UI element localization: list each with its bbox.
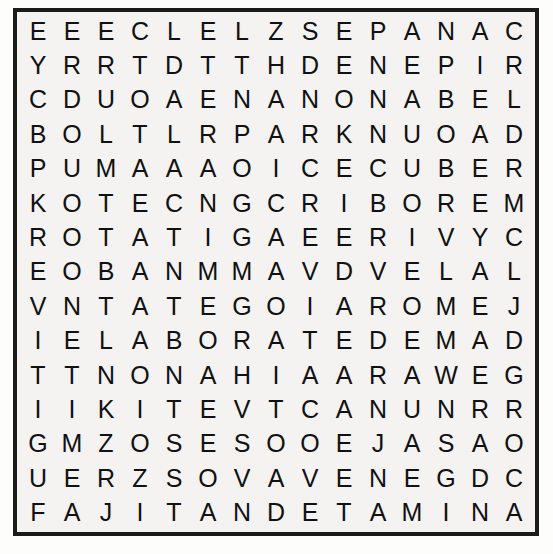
grid-cell[interactable]: R: [191, 117, 225, 151]
grid-cell[interactable]: R: [361, 220, 395, 254]
grid-cell[interactable]: L: [497, 255, 531, 289]
grid-cell[interactable]: C: [123, 14, 157, 48]
grid-cell[interactable]: V: [429, 220, 463, 254]
grid-cell[interactable]: E: [463, 186, 497, 220]
grid-cell[interactable]: A: [123, 289, 157, 323]
grid-cell[interactable]: I: [259, 358, 293, 392]
grid-cell[interactable]: O: [123, 83, 157, 117]
grid-cell[interactable]: R: [463, 392, 497, 426]
grid-cell[interactable]: V: [293, 255, 327, 289]
grid-cell[interactable]: L: [429, 255, 463, 289]
grid-cell[interactable]: D: [361, 324, 395, 358]
grid-cell[interactable]: R: [361, 358, 395, 392]
grid-cell[interactable]: A: [259, 220, 293, 254]
grid-cell[interactable]: B: [21, 117, 55, 151]
grid-cell[interactable]: N: [361, 461, 395, 495]
grid-cell[interactable]: E: [327, 152, 361, 186]
grid-cell[interactable]: E: [21, 255, 55, 289]
grid-cell[interactable]: R: [497, 48, 531, 82]
grid-cell[interactable]: M: [191, 255, 225, 289]
grid-cell[interactable]: E: [327, 461, 361, 495]
grid-cell[interactable]: Z: [123, 461, 157, 495]
grid-cell[interactable]: A: [259, 83, 293, 117]
grid-cell[interactable]: E: [395, 324, 429, 358]
grid-cell[interactable]: E: [463, 152, 497, 186]
grid-cell[interactable]: E: [395, 461, 429, 495]
grid-cell[interactable]: N: [429, 392, 463, 426]
grid-cell[interactable]: G: [225, 186, 259, 220]
grid-cell[interactable]: O: [259, 289, 293, 323]
grid-cell[interactable]: K: [327, 117, 361, 151]
grid-cell[interactable]: D: [327, 255, 361, 289]
grid-cell[interactable]: E: [395, 48, 429, 82]
grid-cell[interactable]: R: [89, 48, 123, 82]
grid-cell[interactable]: S: [157, 461, 191, 495]
grid-cell[interactable]: E: [191, 83, 225, 117]
grid-cell[interactable]: H: [259, 48, 293, 82]
grid-cell[interactable]: A: [191, 358, 225, 392]
grid-cell[interactable]: U: [89, 83, 123, 117]
grid-cell[interactable]: N: [157, 358, 191, 392]
grid-cell[interactable]: P: [429, 48, 463, 82]
grid-cell[interactable]: O: [123, 358, 157, 392]
grid-cell[interactable]: F: [21, 496, 55, 530]
grid-cell[interactable]: U: [55, 152, 89, 186]
grid-cell[interactable]: E: [55, 324, 89, 358]
grid-cell[interactable]: A: [463, 14, 497, 48]
grid-cell[interactable]: U: [21, 461, 55, 495]
grid-cell[interactable]: A: [293, 358, 327, 392]
grid-cell[interactable]: D: [55, 83, 89, 117]
grid-cell[interactable]: N: [157, 255, 191, 289]
grid-cell[interactable]: R: [497, 392, 531, 426]
grid-cell[interactable]: G: [21, 427, 55, 461]
grid-cell[interactable]: E: [327, 427, 361, 461]
grid-cell[interactable]: A: [395, 427, 429, 461]
grid-cell[interactable]: E: [21, 14, 55, 48]
grid-cell[interactable]: A: [259, 255, 293, 289]
grid-cell[interactable]: P: [21, 152, 55, 186]
grid-cell[interactable]: N: [361, 83, 395, 117]
grid-cell[interactable]: T: [89, 186, 123, 220]
grid-cell[interactable]: T: [293, 324, 327, 358]
grid-cell[interactable]: T: [55, 358, 89, 392]
grid-cell[interactable]: M: [225, 255, 259, 289]
grid-cell[interactable]: A: [497, 496, 531, 530]
grid-cell[interactable]: A: [463, 427, 497, 461]
grid-cell[interactable]: I: [21, 392, 55, 426]
grid-cell[interactable]: N: [225, 83, 259, 117]
grid-cell[interactable]: O: [55, 255, 89, 289]
grid-cell[interactable]: E: [89, 14, 123, 48]
grid-cell[interactable]: C: [293, 152, 327, 186]
grid-cell[interactable]: R: [293, 186, 327, 220]
grid-cell[interactable]: S: [429, 427, 463, 461]
grid-cell[interactable]: U: [395, 152, 429, 186]
grid-cell[interactable]: L: [89, 117, 123, 151]
grid-cell[interactable]: B: [429, 152, 463, 186]
grid-cell[interactable]: T: [157, 392, 191, 426]
grid-cell[interactable]: R: [497, 152, 531, 186]
grid-cell[interactable]: N: [463, 496, 497, 530]
grid-cell[interactable]: T: [123, 117, 157, 151]
grid-cell[interactable]: C: [293, 392, 327, 426]
grid-cell[interactable]: I: [123, 496, 157, 530]
grid-cell[interactable]: K: [89, 392, 123, 426]
grid-cell[interactable]: V: [293, 461, 327, 495]
grid-cell[interactable]: E: [327, 14, 361, 48]
grid-cell[interactable]: T: [21, 358, 55, 392]
grid-cell[interactable]: A: [157, 152, 191, 186]
grid-cell[interactable]: L: [497, 83, 531, 117]
grid-cell[interactable]: M: [395, 496, 429, 530]
grid-cell[interactable]: G: [225, 289, 259, 323]
grid-cell[interactable]: A: [123, 255, 157, 289]
grid-cell[interactable]: E: [327, 48, 361, 82]
grid-cell[interactable]: R: [225, 324, 259, 358]
grid-cell[interactable]: O: [293, 427, 327, 461]
grid-cell[interactable]: P: [361, 14, 395, 48]
grid-cell[interactable]: A: [259, 461, 293, 495]
grid-cell[interactable]: E: [395, 255, 429, 289]
grid-cell[interactable]: R: [429, 186, 463, 220]
grid-cell[interactable]: V: [225, 461, 259, 495]
grid-cell[interactable]: O: [395, 289, 429, 323]
grid-cell[interactable]: O: [55, 220, 89, 254]
grid-cell[interactable]: V: [21, 289, 55, 323]
